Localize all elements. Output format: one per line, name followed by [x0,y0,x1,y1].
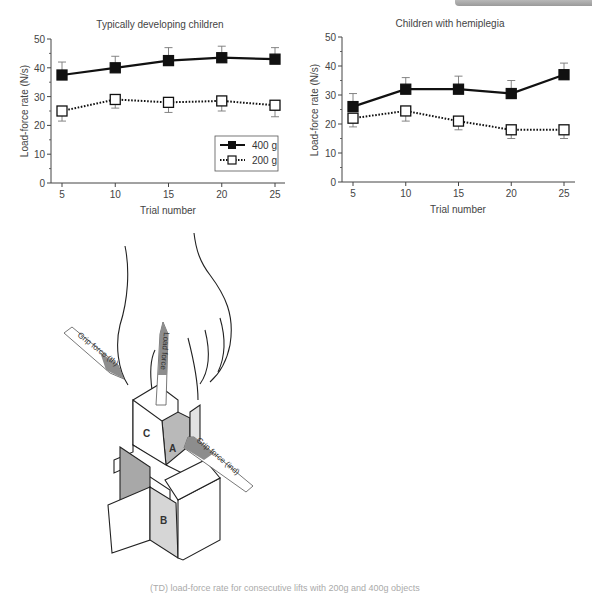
hand-outline [118,233,232,400]
grip-lift-diagram: A B C Grip force (th) Load force Grip fo… [0,220,330,580]
label-a: A [169,443,176,454]
axes: 01020304050510152025 [325,32,575,199]
svg-text:10: 10 [325,148,337,159]
x-axis-label: Trial number [430,204,486,215]
svg-text:0: 0 [39,178,45,189]
x-axis-label: Trial number [140,205,196,216]
svg-text:20: 20 [216,189,228,200]
legend-200g: 200 g [252,155,277,166]
svg-text:25: 25 [558,188,570,199]
y-axis-label: Load-force rate (N/s) [19,65,30,157]
svg-text:15: 15 [453,188,465,199]
svg-text:10: 10 [110,189,122,200]
svg-text:0: 0 [330,177,336,188]
svg-text:10: 10 [34,149,46,160]
svg-text:15: 15 [163,189,175,200]
label-c: C [143,428,150,439]
y-axis-label: Load-force rate (N/s) [309,64,320,156]
chart-hemiplegia: Children with hemiplegia Load-force rate… [300,0,592,220]
svg-text:25: 25 [269,189,281,200]
legend: 400 g 200 g [215,136,278,171]
legend-400g: 400 g [252,140,277,151]
svg-text:40: 40 [34,63,46,74]
plot-area [57,46,280,121]
figure-caption: (TD) load-force rate for consecutive lif… [150,583,592,593]
grip-force-thumb-arrow: Grip force (th) [64,327,124,379]
chart-title: Children with hemiplegia [396,18,505,29]
chart-typically-developing: Typically developing children Load-force… [0,0,300,220]
label-b: B [160,515,167,526]
plot-area [348,63,569,138]
svg-text:10: 10 [400,188,412,199]
svg-text:20: 20 [506,188,518,199]
svg-text:40: 40 [325,61,337,72]
chart-title: Typically developing children [96,19,223,30]
svg-text:20: 20 [325,119,337,130]
svg-text:50: 50 [34,34,46,45]
grip-object [108,385,220,560]
svg-text:5: 5 [59,189,65,200]
svg-text:30: 30 [34,92,46,103]
svg-text:30: 30 [325,90,337,101]
svg-text:20: 20 [34,120,46,131]
svg-text:5: 5 [350,188,356,199]
svg-text:50: 50 [325,32,337,43]
